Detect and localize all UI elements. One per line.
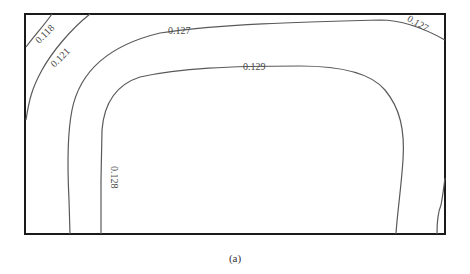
contour-line-right-edge — [437, 178, 445, 234]
contour-line-0129 — [101, 66, 403, 234]
plot-frame — [25, 14, 445, 234]
contour-label-0129: 0.129 — [243, 61, 266, 72]
contour-label-0121: 0.121 — [48, 45, 72, 69]
figure-caption: (a) — [0, 252, 470, 264]
contour-line-0127 — [68, 20, 445, 234]
contour-plot: 0.118 0.121 0.127 0.129 0.128 0.127 — [0, 0, 470, 274]
contour-label-0127-top: 0.127 — [168, 25, 191, 36]
contour-label-0127-right: 0.127 — [406, 13, 431, 34]
contour-figure: 0.118 0.121 0.127 0.129 0.128 0.127 (a) — [0, 0, 470, 274]
contour-label-0118: 0.118 — [33, 22, 56, 45]
contour-label-0128: 0.128 — [109, 166, 120, 189]
